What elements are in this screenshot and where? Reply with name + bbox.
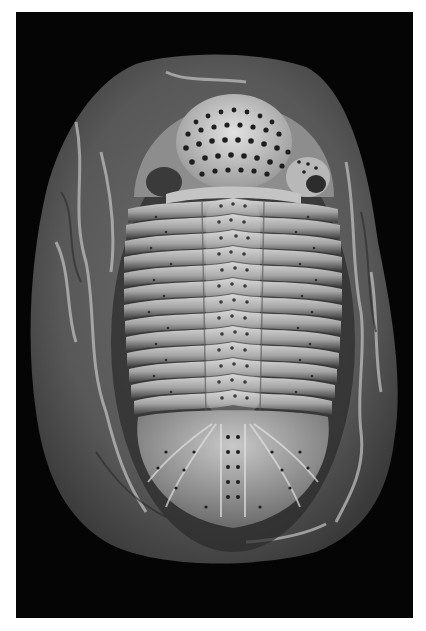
trilobite-thorax — [124, 198, 342, 416]
fossil-photograph: Black-and-white photograph of a pitted t… — [16, 12, 413, 618]
axial-lobe — [206, 198, 260, 416]
trilobite-fossil-illustration — [16, 12, 413, 618]
